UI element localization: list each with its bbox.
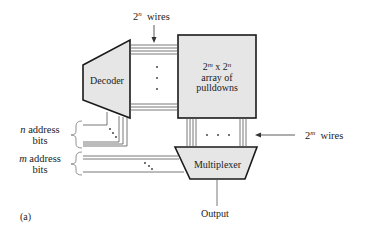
n-var: n [20,124,25,135]
n-bits-text: bits [14,135,66,146]
top-wires-suffix: wires [147,11,170,22]
arrow-left-icon [255,133,261,138]
top-wires-label: 2n wires [133,11,170,22]
output-label: Output [201,208,229,219]
m-address-brace [71,152,82,175]
bit-lines [187,118,246,147]
word-lines-top [130,45,178,110]
figure-label: (a) [20,211,31,222]
memory-block-diagram [0,0,366,238]
m-address-label: m address bits [14,153,66,175]
n-address-label: n address bits [14,124,66,146]
arrow-down-icon [152,37,157,43]
word-lines-ellipsis [156,66,158,90]
right-wires-suffix: wires [321,130,344,141]
m-address-wires [83,156,184,172]
n-address-text: address [28,124,60,135]
array-times: x [215,61,220,72]
array-m-base: 2 [203,61,208,72]
array-dimensions: 2m x 2n [178,62,256,73]
m-address-ellipsis [144,162,153,170]
decoder-label: Decoder [87,75,127,86]
right-wires-exp: m [310,129,315,137]
array-line3: pulldowns [178,83,256,94]
n-address-wires [83,112,127,146]
right-wires-label: 2m wires [305,130,343,141]
n-address-brace [71,121,82,148]
multiplexer-label: Multiplexer [185,159,250,170]
m-bits-text: bits [14,164,66,175]
n-address-ellipsis [109,128,117,138]
m-address-text: address [29,153,61,164]
bit-lines-ellipsis [206,134,230,136]
m-var: m [19,153,27,164]
top-wires-exp: n [138,10,142,18]
array-m-exp: m [208,61,213,69]
array-label: 2m x 2n array of pulldowns [178,62,256,94]
array-n-exp: n [228,61,232,69]
